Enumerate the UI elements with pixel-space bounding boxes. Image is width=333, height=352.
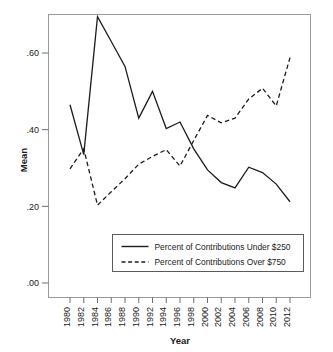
x-tick-label: 1994 — [158, 307, 168, 327]
y-tick-label: .60 — [26, 48, 39, 58]
legend-label-2[interactable]: Percent of Contributions Over $750 — [155, 257, 287, 267]
y-tick-label: .40 — [26, 125, 39, 135]
x-tick-label: 2006 — [241, 307, 251, 327]
chart-figure: .00.20.40.60 198019821984198619881990199… — [0, 0, 333, 352]
x-tick-label: 2002 — [213, 307, 223, 327]
x-tick-label: 2010 — [268, 307, 278, 327]
chart-legend[interactable]: Percent of Contributions Under $250Perce… — [113, 235, 304, 272]
x-tick-label: 1982 — [76, 307, 86, 327]
x-tick-label: 1986 — [103, 307, 113, 327]
x-axis-tick-labels: 1980198219841986198819901992199419961998… — [62, 307, 292, 327]
x-tick-label: 1992 — [145, 307, 155, 327]
legend-label-1[interactable]: Percent of Contributions Under $250 — [155, 242, 291, 252]
x-tick-label: 2004 — [227, 307, 237, 327]
y-axis-title: Mean — [18, 148, 29, 172]
x-tick-label: 1998 — [186, 307, 196, 327]
x-tick-label: 2012 — [282, 307, 292, 327]
x-tick-label: 2008 — [255, 307, 265, 327]
line-chart: .00.20.40.60 198019821984198619881990199… — [0, 0, 333, 352]
x-axis-title: Year — [170, 335, 190, 346]
x-tick-label: 1984 — [90, 307, 100, 327]
x-tick-label: 1988 — [117, 307, 127, 327]
x-tick-label: 1990 — [131, 307, 141, 327]
y-tick-label: .20 — [26, 202, 39, 212]
x-tick-label: 2000 — [200, 307, 210, 327]
y-tick-label: .00 — [26, 278, 39, 288]
x-tick-label: 1996 — [172, 307, 182, 327]
x-tick-label: 1980 — [62, 307, 72, 327]
